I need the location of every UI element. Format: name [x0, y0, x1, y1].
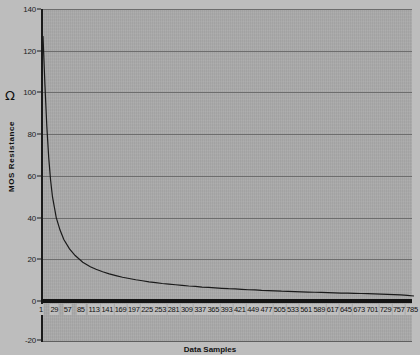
x-tick-label-729: 729: [379, 304, 392, 315]
x-tick-label-449: 449: [247, 304, 260, 315]
y-tick-mark--20: [37, 340, 41, 341]
x-tick-label-701: 701: [366, 304, 379, 315]
x-tick-label-561: 561: [300, 304, 313, 315]
axis-bottom-rule: [43, 341, 412, 342]
y-tick-label-60: 60: [28, 171, 37, 180]
x-tick-label-589: 589: [313, 304, 326, 315]
chart-container: 140120100806040200-20 Ω MOS Resistance 1…: [0, 0, 420, 355]
y-tick-mark-40: [37, 217, 41, 218]
y-tick-mark-80: [37, 134, 41, 135]
x-axis-title: Data Samples: [0, 345, 420, 355]
x-axis-tick-labels: 1295785113141169197225253281309337365393…: [41, 304, 412, 316]
x-tick-label-505: 505: [273, 304, 286, 315]
x-tick-label-281: 281: [167, 304, 180, 315]
y-tick-label-120: 120: [23, 46, 36, 55]
y-tick-label-20: 20: [28, 255, 37, 264]
y-tick-mark-100: [37, 92, 41, 93]
y-tick-label-80: 80: [28, 130, 37, 139]
y-tick-mark-20: [37, 259, 41, 260]
x-tick-label-169: 169: [114, 304, 127, 315]
x-tick-label-141: 141: [101, 304, 114, 315]
x-tick-label-477: 477: [260, 304, 273, 315]
plot-area: [41, 9, 412, 301]
x-tick-label-645: 645: [339, 304, 352, 315]
y-tick-label-40: 40: [28, 213, 37, 222]
x-tick-label-757: 757: [392, 304, 405, 315]
x-tick-label-533: 533: [286, 304, 299, 315]
series-line-mos-resistance: [43, 9, 414, 301]
x-tick-label-393: 393: [220, 304, 233, 315]
x-tick-label-113: 113: [88, 304, 100, 315]
x-tick-label-29: 29: [50, 304, 59, 315]
x-tick-label-673: 673: [353, 304, 366, 315]
y-axis-title: MOS Resistance: [7, 102, 16, 212]
x-tick-label-365: 365: [207, 304, 220, 315]
y-tick-mark-140: [37, 9, 41, 10]
x-tick-label-1: 1: [39, 304, 44, 315]
y-tick-label-140: 140: [23, 5, 36, 14]
x-tick-label-309: 309: [180, 304, 193, 315]
y-tick-label--20: -20: [25, 336, 36, 345]
y-tick-label-100: 100: [23, 88, 36, 97]
x-tick-label-617: 617: [326, 304, 339, 315]
y-tick-label-0: 0: [32, 297, 36, 306]
x-tick-label-57: 57: [63, 304, 72, 315]
x-tick-label-337: 337: [194, 304, 207, 315]
x-tick-label-785: 785: [406, 304, 419, 315]
x-tick-label-253: 253: [154, 304, 167, 315]
y-tick-mark-120: [37, 50, 41, 51]
x-tick-label-85: 85: [76, 304, 85, 315]
x-tick-label-225: 225: [141, 304, 154, 315]
y-tick-mark-60: [37, 175, 41, 176]
x-tick-label-421: 421: [233, 304, 246, 315]
x-tick-label-197: 197: [127, 304, 140, 315]
y-tick-mark-0: [37, 301, 41, 302]
